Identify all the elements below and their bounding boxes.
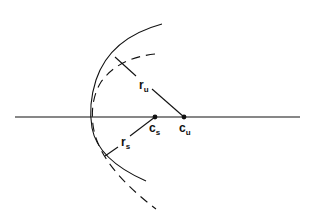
radius-s-line-lower <box>105 147 118 156</box>
solid-arc <box>91 24 162 181</box>
label-cs: cs <box>149 121 161 137</box>
center-u-dot <box>182 115 187 120</box>
radius-u-line-lower <box>152 89 184 117</box>
label-cu-sub: u <box>186 128 191 137</box>
label-rs: rs <box>121 135 131 151</box>
label-cs-sub: s <box>156 128 161 137</box>
center-s-dot <box>153 115 158 120</box>
label-rs-sub: s <box>126 142 131 151</box>
dashed-arc <box>92 54 156 209</box>
label-cu: cu <box>179 121 191 137</box>
radius-u-line-upper <box>115 57 136 76</box>
curvature-diagram: ru rs cs cu <box>0 0 317 221</box>
label-ru: ru <box>139 78 149 94</box>
label-ru-sub: u <box>144 85 149 94</box>
